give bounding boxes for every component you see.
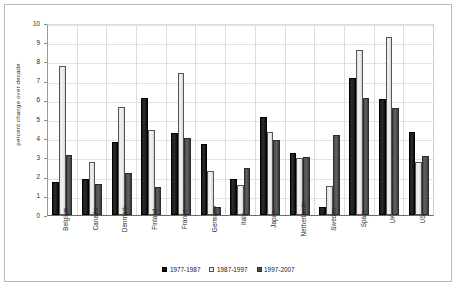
y-axis-tick-mark (44, 178, 47, 179)
bar (82, 179, 89, 215)
bar (230, 179, 237, 215)
y-axis-tick-mark (44, 101, 47, 102)
plot-area (47, 24, 434, 216)
bar (392, 108, 399, 215)
x-axis-label: UK (389, 215, 396, 224)
y-axis-tick-mark (44, 62, 47, 63)
x-axis-labels: BelgiumCanadaDenmarkFinlandFranceGermany… (47, 217, 434, 265)
bar (356, 50, 363, 215)
y-axis-tick-label: 6 (20, 97, 40, 103)
bar (273, 140, 280, 215)
y-axis-tick-label: 2 (20, 174, 40, 180)
y-axis-tick-mark (44, 43, 47, 44)
y-axis-tick-label: 8 (20, 59, 40, 65)
bar (379, 99, 386, 215)
legend-label: 1987-1997 (217, 266, 248, 273)
bar (386, 37, 393, 215)
x-axis-label-cell: Finland (136, 217, 166, 265)
bar (415, 162, 422, 215)
y-axis-tick-label: 1 (20, 193, 40, 199)
x-axis-label-cell: Canada (77, 217, 107, 265)
bar-group (315, 25, 345, 215)
legend-label: 1997-2007 (264, 266, 295, 273)
bar (267, 132, 274, 215)
bar (52, 182, 59, 215)
y-axis-tick-label: 4 (20, 136, 40, 142)
bar (319, 207, 326, 215)
legend-item[interactable]: 1987-1997 (209, 266, 247, 273)
legend-swatch-icon (257, 267, 262, 272)
bar (349, 78, 356, 215)
x-axis-label-cell: Germany (196, 217, 226, 265)
bar (184, 138, 191, 215)
bar (244, 168, 251, 215)
y-axis-tick-mark (44, 120, 47, 121)
x-axis-label: Netherlands (300, 201, 307, 236)
x-axis-label-cell: Spain (345, 217, 375, 265)
bar-group (404, 25, 433, 215)
bar-group (345, 25, 375, 215)
bar-groups (48, 25, 433, 215)
bar-set (112, 25, 132, 215)
x-axis-label: Italy (240, 213, 247, 225)
x-axis-label-cell: France (166, 217, 196, 265)
bar-group (286, 25, 316, 215)
x-axis-label-cell: UK (374, 217, 404, 265)
x-axis-label-cell: Denmark (107, 217, 137, 265)
y-axis-tick-mark (44, 24, 47, 25)
y-axis-tick-label: 5 (20, 117, 40, 123)
y-axis-tick-mark (44, 139, 47, 140)
legend-label: 1977-1987 (170, 266, 201, 273)
x-axis-label: Denmark (121, 206, 128, 232)
bar-set (349, 25, 369, 215)
bar-group (137, 25, 167, 215)
y-axis-tick-label: 3 (20, 155, 40, 161)
x-axis-label: Japan (270, 210, 277, 228)
legend-swatch-icon (162, 267, 167, 272)
bar-set (319, 25, 339, 215)
bar-group (196, 25, 226, 215)
x-axis-label-cell: Belgium (47, 217, 77, 265)
bar-group (226, 25, 256, 215)
bar-group (107, 25, 137, 215)
bar (422, 156, 429, 215)
x-axis-label: Germany (211, 206, 218, 233)
bar-set (260, 25, 280, 215)
x-axis-label: Spain (360, 211, 367, 228)
bar-set (201, 25, 221, 215)
bar (409, 132, 416, 215)
legend-item[interactable]: 1977-1987 (162, 266, 200, 273)
y-axis-tick-mark (44, 82, 47, 83)
bar (201, 144, 208, 215)
bar (171, 133, 178, 215)
bar (148, 130, 155, 215)
legend-item[interactable]: 1997-2007 (257, 266, 295, 273)
bar (260, 117, 267, 215)
y-axis-tick-label: 9 (20, 40, 40, 46)
bar-group (78, 25, 108, 215)
bar (118, 107, 125, 215)
bar (66, 155, 73, 215)
x-axis-label-cell: US (404, 217, 434, 265)
x-axis-label-cell: Netherlands (285, 217, 315, 265)
chart-legend: 1977-19871987-19971997-2007 (0, 266, 457, 273)
bar-set (230, 25, 250, 215)
bar (59, 66, 66, 215)
x-axis-label-cell: Italy (226, 217, 256, 265)
bar-group (167, 25, 197, 215)
bar (112, 142, 119, 215)
chart-figure: percent change over decade 012345678910 … (0, 0, 457, 287)
bar (237, 185, 244, 215)
y-axis-tick-label: 7 (20, 78, 40, 84)
y-axis-tick-mark (44, 197, 47, 198)
x-axis-label: US (419, 215, 426, 224)
y-axis-tick-label: 10 (20, 21, 40, 27)
bar-set (52, 25, 72, 215)
bar-set (409, 25, 429, 215)
bar-set (82, 25, 102, 215)
x-axis-label: France (181, 209, 188, 229)
legend-swatch-icon (209, 267, 214, 272)
x-axis-label: Canada (92, 208, 99, 231)
bar-set (141, 25, 161, 215)
y-axis-tick-mark (44, 158, 47, 159)
